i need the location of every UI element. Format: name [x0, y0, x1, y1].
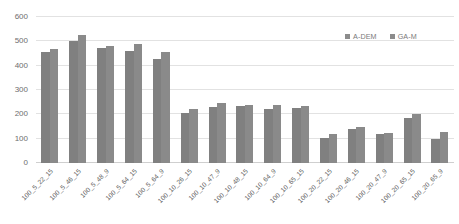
bar-group	[36, 17, 64, 163]
bar	[329, 134, 338, 163]
bar	[50, 49, 59, 163]
legend-entry[interactable]: GA-M	[390, 33, 417, 40]
bar-group	[259, 17, 287, 163]
bar	[236, 106, 245, 163]
bar	[320, 138, 329, 163]
bar-group	[147, 17, 175, 163]
legend-entry[interactable]: A-DEM	[345, 33, 377, 40]
bar	[273, 105, 282, 163]
y-axis-tick-label: 600	[15, 13, 28, 21]
legend-swatch-icon	[345, 34, 350, 39]
bar	[97, 48, 106, 163]
bar-group	[203, 17, 231, 163]
bar	[69, 41, 78, 163]
y-axis: 0100200300400500600	[0, 17, 33, 163]
y-axis-tick-label: 200	[15, 110, 28, 118]
bar	[78, 35, 87, 163]
bar	[292, 108, 301, 163]
x-axis-tick: 100_20_65_9	[426, 163, 454, 224]
bar	[41, 52, 50, 163]
x-axis: 100_5_22_15100_5_46_15100_5_48_9100_5_64…	[36, 163, 454, 224]
bar	[264, 109, 273, 164]
y-axis-tick-label: 0	[24, 159, 28, 167]
bar-group	[175, 17, 203, 163]
bar	[356, 127, 365, 163]
bar-chart: 0100200300400500600 100_5_22_15100_5_46_…	[0, 0, 459, 224]
bar-group	[64, 17, 92, 163]
bar	[125, 51, 134, 163]
bar	[440, 132, 449, 163]
y-axis-tick-label: 500	[15, 37, 28, 45]
bar	[209, 107, 218, 163]
y-axis-tick-label: 400	[15, 62, 28, 70]
bar	[106, 46, 115, 163]
bar	[431, 139, 440, 163]
bar	[348, 129, 357, 163]
bar	[189, 109, 198, 163]
legend-label: GA-M	[398, 33, 417, 40]
bar	[217, 103, 226, 163]
bar-group	[231, 17, 259, 163]
bar	[384, 133, 393, 163]
bar	[301, 106, 310, 163]
bar-group	[92, 17, 120, 163]
legend-swatch-icon	[390, 34, 395, 39]
bar-group	[120, 17, 148, 163]
bar	[412, 114, 421, 163]
chart-legend: A-DEMGA-M	[345, 33, 417, 40]
bar	[376, 134, 385, 163]
bar-group	[315, 17, 343, 163]
bar	[404, 118, 413, 163]
bar-group	[426, 17, 454, 163]
y-axis-tick-label: 300	[15, 86, 28, 94]
bar	[245, 105, 254, 163]
y-axis-tick-label: 100	[15, 135, 28, 143]
bar	[153, 59, 162, 163]
bar-group	[287, 17, 315, 163]
bar	[161, 52, 170, 163]
bar	[181, 113, 190, 163]
legend-label: A-DEM	[353, 33, 377, 40]
bar	[134, 44, 143, 163]
